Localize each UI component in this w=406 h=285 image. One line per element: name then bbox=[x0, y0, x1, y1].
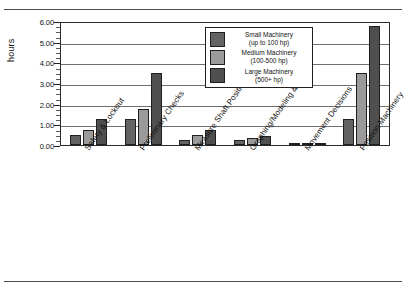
bottom-divider-rule bbox=[4, 281, 402, 282]
y-tick-label: 0.00 bbox=[28, 142, 54, 151]
y-tick-label: 6.00 bbox=[28, 18, 54, 27]
y-tick-label: 4.00 bbox=[28, 59, 54, 68]
bar bbox=[289, 143, 300, 145]
legend-item: Large Machinery (500+ hp) bbox=[210, 68, 308, 84]
top-divider-rule bbox=[4, 9, 402, 10]
bar bbox=[70, 135, 81, 145]
legend-label-medium-machinery: Medium Machinery (100-500 hp) bbox=[230, 49, 308, 65]
legend-label-large-machinery: Large Machinery (500+ hp) bbox=[230, 68, 308, 84]
legend-range: (100-500 hp) bbox=[230, 57, 308, 65]
legend-swatch-large-machinery bbox=[210, 68, 225, 83]
y-tick-label: 3.00 bbox=[28, 80, 54, 89]
legend-name: Large Machinery bbox=[230, 68, 308, 76]
legend-name: Medium Machinery bbox=[230, 49, 308, 57]
y-tick-label: 2.00 bbox=[28, 100, 54, 109]
legend-range: (500+ hp) bbox=[230, 76, 308, 84]
legend-swatch-small-machinery bbox=[210, 32, 225, 47]
legend-swatch-medium-machinery bbox=[210, 50, 225, 65]
chart-legend: Small Machinery (up to 100 hp) Medium Ma… bbox=[205, 27, 313, 88]
chart-figure: hours 0.001.002.003.004.005.006.00 Safet… bbox=[0, 0, 406, 285]
y-tick-label: 1.00 bbox=[28, 121, 54, 130]
legend-label-small-machinery: Small Machinery (up to 100 hp) bbox=[230, 31, 308, 47]
x-axis-category-labels: Safety & LockoutPreliminary ChecksMeasur… bbox=[60, 147, 390, 242]
legend-item: Small Machinery (up to 100 hp) bbox=[210, 31, 308, 47]
y-axis-title: hours bbox=[6, 38, 16, 62]
bar bbox=[125, 119, 136, 145]
legend-item: Medium Machinery (100-500 hp) bbox=[210, 49, 308, 65]
y-tick-label: 5.00 bbox=[28, 38, 54, 47]
bar bbox=[179, 140, 190, 145]
bar bbox=[234, 140, 245, 145]
legend-range: (up to 100 hp) bbox=[230, 39, 308, 47]
top-text-strip bbox=[0, 0, 406, 8]
legend-name: Small Machinery bbox=[230, 31, 308, 39]
bar bbox=[343, 119, 354, 145]
y-axis-tick-labels: 0.001.002.003.004.005.006.00 bbox=[26, 22, 54, 146]
